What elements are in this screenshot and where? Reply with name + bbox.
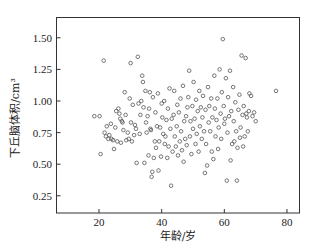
data-point <box>202 130 206 134</box>
data-point <box>245 116 249 120</box>
data-point <box>185 143 189 147</box>
data-point <box>220 90 224 94</box>
data-point <box>182 160 186 164</box>
data-point <box>235 179 239 183</box>
data-point <box>151 95 155 99</box>
data-point <box>225 179 229 183</box>
data-point <box>154 111 158 115</box>
y-axis-title: 下丘脑体积/cm³ <box>8 78 22 158</box>
data-point <box>93 114 97 118</box>
data-point <box>140 74 144 78</box>
x-tick-label: 60 <box>219 216 231 228</box>
data-point <box>147 154 151 158</box>
data-point <box>176 103 180 107</box>
data-point <box>247 109 251 113</box>
data-point <box>241 113 245 117</box>
data-point <box>221 37 225 41</box>
data-point <box>201 116 205 120</box>
data-point <box>187 95 191 99</box>
data-point <box>186 106 190 110</box>
data-point <box>190 152 194 156</box>
data-point <box>145 131 149 135</box>
data-point <box>168 87 172 91</box>
data-point <box>241 145 245 149</box>
data-point <box>238 136 242 140</box>
data-point <box>228 69 232 73</box>
x-axis-title: 年龄/岁 <box>160 229 197 243</box>
data-point <box>165 118 169 122</box>
data-point <box>201 94 205 98</box>
data-point <box>159 155 163 159</box>
data-point <box>109 122 113 126</box>
data-point <box>223 117 227 121</box>
data-point <box>175 125 179 129</box>
data-point <box>177 111 181 115</box>
data-point <box>132 133 136 137</box>
data-point <box>226 95 230 99</box>
data-point <box>210 150 214 154</box>
data-point <box>117 107 121 111</box>
data-point <box>229 109 233 113</box>
data-point <box>187 69 191 73</box>
data-point <box>112 147 116 151</box>
data-point <box>244 56 248 60</box>
data-point <box>152 156 156 160</box>
data-point <box>191 104 195 108</box>
data-point <box>133 123 137 127</box>
data-point <box>232 119 236 123</box>
data-point <box>238 93 242 97</box>
data-point <box>204 142 208 146</box>
data-point <box>119 141 123 145</box>
data-point <box>139 113 143 117</box>
data-point <box>138 132 142 136</box>
data-point <box>240 54 244 58</box>
data-point <box>183 137 187 141</box>
data-point <box>174 145 178 149</box>
data-point <box>198 125 202 129</box>
data-point <box>223 122 227 126</box>
data-point <box>135 161 139 165</box>
x-tick-label: 20 <box>94 216 106 228</box>
data-point <box>237 108 241 112</box>
data-point <box>212 157 216 161</box>
data-point <box>198 89 202 93</box>
data-point <box>129 121 133 125</box>
data-point <box>208 104 212 108</box>
data-point <box>236 146 240 150</box>
data-point <box>224 76 228 80</box>
data-point <box>176 154 180 158</box>
data-point <box>217 126 221 130</box>
y-tick-label: 0.50 <box>33 158 53 170</box>
data-point <box>178 140 182 144</box>
x-axis: 20406080 <box>94 209 293 228</box>
data-point <box>239 126 243 130</box>
data-point <box>194 98 198 102</box>
data-point <box>229 159 233 163</box>
data-point <box>196 109 200 113</box>
data-point <box>150 175 154 179</box>
x-tick-label: 40 <box>156 216 168 228</box>
data-point <box>162 99 166 103</box>
data-point <box>233 140 237 144</box>
data-point <box>205 164 209 168</box>
data-point <box>166 107 170 111</box>
data-point <box>157 140 161 144</box>
data-point <box>181 84 185 88</box>
data-point <box>189 119 193 123</box>
data-point <box>226 131 230 135</box>
data-point <box>206 85 210 89</box>
data-point <box>213 107 217 111</box>
y-tick-label: 0.75 <box>33 127 53 139</box>
data-point <box>129 61 133 65</box>
data-point <box>144 121 148 125</box>
data-point <box>234 130 238 134</box>
data-point <box>219 112 223 116</box>
data-point <box>207 121 211 125</box>
data-point <box>199 106 203 110</box>
data-point <box>219 137 223 141</box>
data-point <box>146 114 150 118</box>
data-point <box>227 114 231 118</box>
data-point <box>164 135 168 139</box>
data-point <box>143 161 147 165</box>
data-point <box>193 117 197 121</box>
